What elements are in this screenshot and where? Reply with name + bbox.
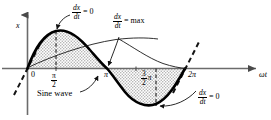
sine-wave-figure: x ωt 0 π 2 π 3 2 π 2π dx dt = 0 dx dt xyxy=(0,0,271,120)
annotation-top-right-numerator: dx xyxy=(113,13,122,21)
annotation-top-left-equals: = xyxy=(83,8,88,16)
leader-sine-wave-label xyxy=(80,76,98,92)
tick-label-half-pi: π 2 xyxy=(51,71,57,88)
annotation-bottom-right-numerator: dx xyxy=(198,89,207,97)
three-halves-denominator: 2 xyxy=(141,78,147,87)
annotation-top-right-denominator: dt xyxy=(113,21,122,30)
helper-curve-descending xyxy=(118,39,186,69)
y-axis-label: x xyxy=(16,22,20,30)
three-halves-numerator: 3 xyxy=(141,70,147,78)
annotation-bottom-right-equals: = xyxy=(209,93,214,101)
tick-label-three-halves-pi: 3 2 π xyxy=(141,70,152,86)
annotation-top-right-equals: = xyxy=(124,17,129,25)
x-axis-label: ωt xyxy=(259,71,267,79)
three-halves-pi-suffix: π xyxy=(148,74,152,82)
annotation-top-left-value: 0 xyxy=(90,8,94,16)
tick-label-two-pi: 2π xyxy=(188,71,196,79)
annotation-top-left-numerator: dx xyxy=(72,4,81,12)
annotation-top-right-value: max xyxy=(131,17,145,25)
annotation-bottom-right-value: 0 xyxy=(216,93,220,101)
sine-wave-label: Sine wave xyxy=(37,89,72,98)
annotation-derivative-max: dx dt = max xyxy=(113,13,144,30)
annotation-derivative-zero-peak: dx dt = 0 xyxy=(72,4,94,21)
annotation-derivative-zero-trough: dx dt = 0 xyxy=(198,89,220,106)
annotation-top-left-denominator: dt xyxy=(72,12,81,21)
annotation-bottom-right-denominator: dt xyxy=(198,97,207,106)
tick-label-origin: 0 xyxy=(31,71,35,79)
half-pi-numerator: π xyxy=(51,72,57,80)
leader-top-right-annotation xyxy=(109,37,120,66)
leader-top-left-annotation xyxy=(57,15,70,29)
tick-label-pi: π xyxy=(104,71,108,79)
